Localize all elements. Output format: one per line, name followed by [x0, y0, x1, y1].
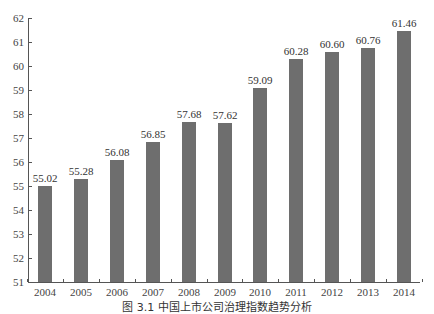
bar	[74, 179, 88, 282]
bar	[253, 88, 267, 282]
bar	[38, 186, 52, 282]
x-tick-label: 2004	[25, 286, 65, 298]
y-tick-label: 59	[2, 84, 24, 96]
y-tick-label: 53	[2, 228, 24, 240]
x-tick-label: 2005	[61, 286, 101, 298]
value-label: 57.62	[200, 109, 250, 121]
y-tick-label: 54	[2, 204, 24, 216]
y-tick	[28, 90, 32, 91]
x-tick-label: 2010	[240, 286, 280, 298]
x-tick-label: 2006	[97, 286, 137, 298]
bar	[289, 59, 303, 282]
y-tick-label: 51	[2, 276, 24, 288]
bar	[110, 160, 124, 282]
x-tick	[350, 279, 351, 282]
y-tick-label: 62	[2, 12, 24, 24]
y-tick-label: 61	[2, 36, 24, 48]
x-tick	[314, 279, 315, 282]
x-tick-label: 2012	[312, 286, 352, 298]
y-tick	[28, 66, 32, 67]
x-tick-label: 2014	[384, 286, 424, 298]
x-tick	[386, 279, 387, 282]
bar	[182, 122, 196, 282]
y-tick-label: 57	[2, 132, 24, 144]
bar	[325, 52, 339, 282]
y-tick-label: 60	[2, 60, 24, 72]
x-axis	[28, 282, 420, 283]
y-tick	[28, 258, 32, 259]
x-tick	[27, 279, 28, 282]
y-tick-label: 56	[2, 156, 24, 168]
y-tick	[28, 114, 32, 115]
y-tick	[28, 282, 32, 283]
x-tick	[422, 279, 423, 282]
x-tick	[99, 279, 100, 282]
x-tick-label: 2008	[169, 286, 209, 298]
x-tick-label: 2007	[133, 286, 173, 298]
x-tick-label: 2009	[205, 286, 245, 298]
y-axis	[28, 18, 29, 282]
value-label: 56.08	[92, 146, 142, 158]
bar	[218, 123, 232, 282]
bar	[146, 142, 160, 282]
x-tick	[63, 279, 64, 282]
value-label: 60.76	[343, 34, 393, 46]
y-tick	[28, 18, 32, 19]
value-label: 59.09	[235, 74, 285, 86]
value-label: 61.46	[379, 17, 429, 29]
x-tick	[171, 279, 172, 282]
bar	[361, 48, 375, 282]
bar	[397, 31, 411, 282]
y-tick	[28, 42, 32, 43]
y-tick	[28, 210, 32, 211]
x-tick	[242, 279, 243, 282]
x-tick	[135, 279, 136, 282]
value-label: 56.85	[128, 128, 178, 140]
x-tick	[278, 279, 279, 282]
y-tick-label: 58	[2, 108, 24, 120]
value-label: 55.28	[56, 165, 106, 177]
x-tick-label: 2013	[348, 286, 388, 298]
y-tick	[28, 162, 32, 163]
y-tick	[28, 234, 32, 235]
figure-caption: 图 3.1 中国上市公司治理指数趋势分析	[0, 298, 434, 314]
y-tick	[28, 186, 32, 187]
y-tick-label: 52	[2, 252, 24, 264]
y-tick	[28, 138, 32, 139]
x-tick-label: 2011	[276, 286, 316, 298]
x-tick	[207, 279, 208, 282]
